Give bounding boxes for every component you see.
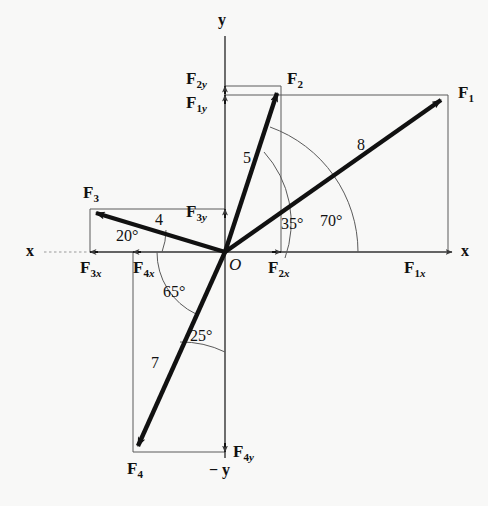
x-axis-left-label: x — [26, 243, 34, 259]
angle-label-25: 25° — [190, 328, 212, 344]
f4-sub: 4 — [137, 468, 143, 480]
component-label-f2y: F2y — [186, 70, 207, 90]
component-label-f3x: F3x — [80, 259, 101, 279]
f4y-sub-axis: y — [249, 451, 254, 463]
magnitude-label-f3: 4 — [155, 212, 163, 228]
f3x-sub-axis: x — [96, 267, 102, 279]
angle-label-35: 35° — [281, 216, 303, 232]
y-axis-top-label: y — [218, 12, 226, 28]
f2-sub: 2 — [297, 78, 303, 90]
f3-sub: 3 — [93, 192, 99, 204]
f3x-base: F — [80, 258, 90, 277]
f1y-base: F — [186, 93, 196, 112]
f4y-base: F — [233, 442, 243, 461]
magnitude-label-f2: 5 — [243, 150, 251, 166]
f2-base: F — [287, 69, 297, 88]
f1-sub: 1 — [468, 92, 474, 104]
y-axis-bottom-label: − y — [209, 462, 230, 478]
force-label-f2: F2 — [287, 70, 303, 90]
f3-base: F — [83, 183, 93, 202]
axis-lines — [44, 36, 452, 458]
angle-label-65: 65° — [163, 284, 185, 300]
component-label-f3y: F3y — [186, 203, 207, 223]
f2x-sub-axis: x — [284, 267, 290, 279]
component-label-f2x: F2x — [268, 259, 289, 279]
f1y-sub-axis: y — [202, 102, 207, 114]
f3y-base: F — [186, 202, 196, 221]
component-label-f1x: F1x — [404, 259, 425, 279]
force-vector-diagram: x x y − y O F1 F2 F3 F4 F1x F2x F3x F4x … — [0, 0, 488, 506]
x-axis-right-label: x — [461, 243, 469, 259]
angle-label-70: 70° — [320, 213, 342, 229]
force-label-f4: F4 — [127, 460, 143, 480]
f1x-base: F — [404, 258, 414, 277]
f4x-base: F — [133, 258, 143, 277]
angle-arc-35 — [264, 152, 291, 258]
origin-label: O — [229, 256, 241, 273]
f4-base: F — [127, 459, 137, 478]
f2x-base: F — [268, 258, 278, 277]
f2y-base: F — [186, 69, 196, 88]
vector-f4 — [138, 252, 225, 446]
magnitude-label-f1: 8 — [357, 137, 365, 153]
f1-base: F — [458, 83, 468, 102]
component-ticks — [90, 86, 281, 452]
component-label-f4y: F4y — [233, 443, 254, 463]
force-label-f3: F3 — [83, 184, 99, 204]
magnitude-label-f4: 7 — [151, 355, 159, 371]
vector-f1 — [225, 100, 441, 252]
f1x-sub-axis: x — [420, 267, 426, 279]
angle-label-20: 20° — [116, 228, 138, 244]
f3y-sub-axis: y — [202, 211, 207, 223]
f2y-sub-axis: y — [202, 78, 207, 90]
f4x-sub-axis: x — [149, 267, 155, 279]
diagram-canvas — [0, 0, 488, 506]
component-label-f4x: F4x — [133, 259, 154, 279]
component-label-f1y: F1y — [186, 94, 207, 114]
vector-f2 — [225, 93, 277, 252]
force-label-f1: F1 — [458, 84, 474, 104]
